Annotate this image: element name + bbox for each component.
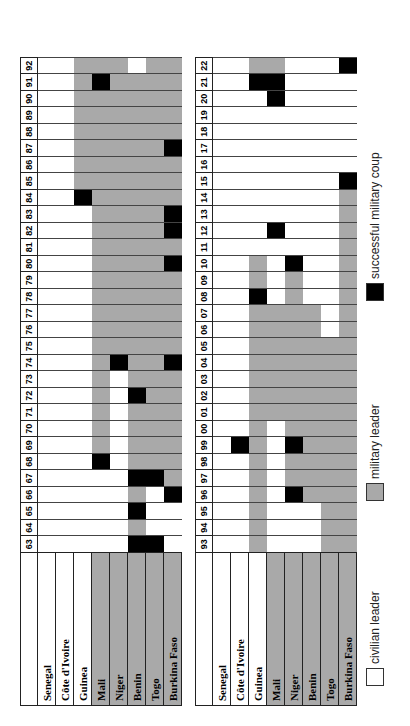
status-cell	[128, 305, 146, 322]
status-cell	[213, 58, 231, 75]
status-cell	[285, 173, 303, 190]
status-cell	[321, 239, 339, 256]
year-header-cell: 17	[196, 140, 213, 157]
status-cell	[110, 338, 128, 355]
year-header-cell: 88	[21, 124, 38, 141]
status-cell	[231, 503, 249, 520]
year-header-cell: 18	[196, 124, 213, 141]
country-row: Benin	[303, 58, 321, 706]
status-cell	[267, 223, 285, 240]
status-cell	[321, 91, 339, 108]
status-cell	[339, 520, 357, 537]
status-cell	[321, 487, 339, 504]
status-cell	[110, 305, 128, 322]
status-cell	[285, 322, 303, 339]
status-cell	[38, 338, 56, 355]
status-cell	[146, 190, 164, 207]
status-cell	[74, 190, 92, 207]
year-header-cell: 96	[196, 487, 213, 504]
status-cell	[74, 140, 92, 157]
status-cell	[56, 239, 74, 256]
status-cell	[231, 371, 249, 388]
status-cell	[56, 124, 74, 141]
status-cell	[92, 437, 110, 454]
status-cell	[231, 107, 249, 124]
country-row: Senegal	[38, 58, 56, 706]
status-cell	[321, 206, 339, 223]
status-cell	[74, 470, 92, 487]
year-header-cell: 79	[21, 272, 38, 289]
status-cell	[110, 421, 128, 438]
status-cell	[213, 107, 231, 124]
status-cell	[38, 421, 56, 438]
status-cell	[231, 206, 249, 223]
country-row: Côte d'Ivoire	[56, 58, 74, 706]
status-cell	[213, 371, 231, 388]
status-cell	[213, 388, 231, 405]
status-cell	[38, 437, 56, 454]
status-cell	[339, 421, 357, 438]
status-cell	[321, 107, 339, 124]
status-cell	[285, 157, 303, 174]
status-cell	[164, 388, 182, 405]
status-cell	[303, 388, 321, 405]
status-cell	[285, 124, 303, 141]
country-row: Guinea	[249, 58, 267, 706]
status-cell	[267, 388, 285, 405]
status-cell	[110, 520, 128, 537]
status-cell	[164, 157, 182, 174]
status-cell	[303, 124, 321, 141]
status-cell	[339, 91, 357, 108]
status-cell	[267, 206, 285, 223]
status-cell	[303, 487, 321, 504]
status-cell	[321, 355, 339, 372]
country-label: Mali	[267, 553, 285, 706]
status-cell	[146, 305, 164, 322]
status-cell	[164, 355, 182, 372]
country-label: Burkina Faso	[339, 553, 357, 706]
country-label: Togo	[146, 553, 164, 706]
status-cell	[146, 487, 164, 504]
status-cell	[110, 371, 128, 388]
status-cell	[285, 239, 303, 256]
status-cell	[164, 107, 182, 124]
status-cell	[249, 223, 267, 240]
status-cell	[249, 437, 267, 454]
status-cell	[249, 140, 267, 157]
status-cell	[285, 388, 303, 405]
status-cell	[164, 289, 182, 306]
status-cell	[92, 487, 110, 504]
status-cell	[267, 289, 285, 306]
status-cell	[321, 190, 339, 207]
status-cell	[339, 338, 357, 355]
year-header-cell: 07	[196, 305, 213, 322]
country-label: Mali	[92, 553, 110, 706]
status-cell	[339, 107, 357, 124]
status-cell	[74, 107, 92, 124]
status-cell	[74, 239, 92, 256]
legend-civilian-label: civilian leader	[368, 591, 382, 664]
year-header-cell: 95	[196, 503, 213, 520]
status-cell	[164, 58, 182, 75]
status-cell	[249, 470, 267, 487]
status-cell	[38, 140, 56, 157]
status-cell	[92, 91, 110, 108]
status-cell	[128, 338, 146, 355]
status-cell	[285, 91, 303, 108]
status-cell	[231, 124, 249, 141]
status-cell	[38, 91, 56, 108]
status-cell	[146, 470, 164, 487]
status-cell	[38, 322, 56, 339]
status-cell	[249, 388, 267, 405]
status-cell	[321, 503, 339, 520]
status-cell	[213, 223, 231, 240]
status-cell	[128, 289, 146, 306]
year-header-cell: 93	[196, 536, 213, 553]
status-cell	[321, 536, 339, 553]
status-cell	[38, 454, 56, 471]
status-cell	[339, 487, 357, 504]
corner-cell	[21, 553, 38, 706]
status-cell	[92, 58, 110, 75]
status-cell	[164, 454, 182, 471]
country-row: Guinea	[74, 58, 92, 706]
